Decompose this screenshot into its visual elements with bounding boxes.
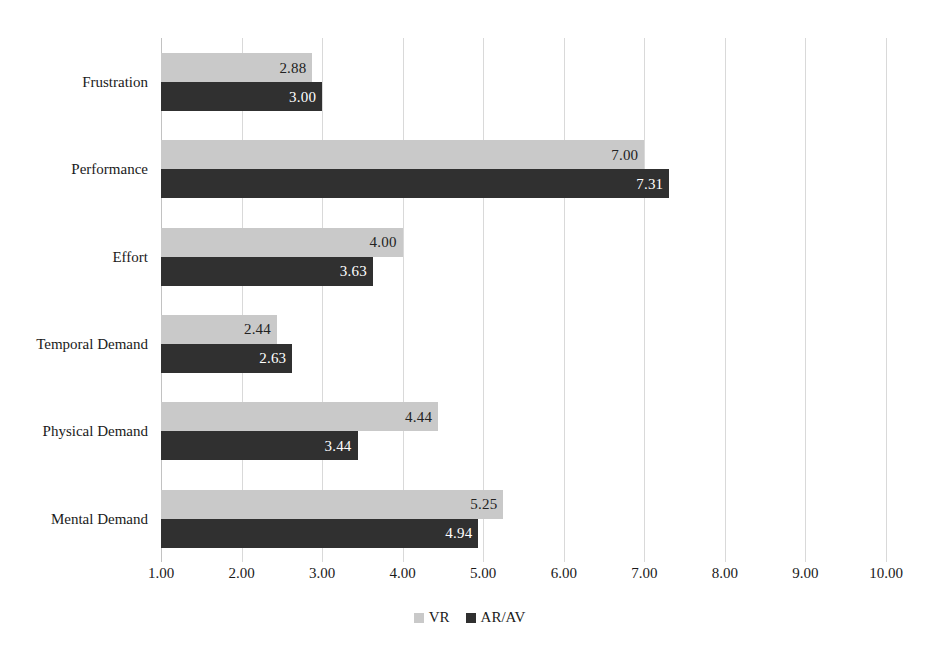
legend-label: AR/AV	[481, 610, 526, 625]
bar-ar-av-frustration: 3.00	[161, 82, 322, 111]
bar-value-label: 2.63	[259, 351, 286, 366]
bar-group: 5.254.94	[161, 490, 886, 548]
bar-value-label: 3.63	[340, 264, 367, 279]
bar-group: 2.442.63	[161, 315, 886, 373]
bar-vr-effort: 4.00	[161, 228, 403, 257]
category-label-mental-demand: Mental Demand	[11, 511, 161, 526]
bar-value-label: 7.00	[611, 147, 638, 162]
gridline-4.00	[403, 38, 404, 562]
x-tick-label-1.00: 1.00	[148, 566, 174, 581]
bar-vr-temporal-demand: 2.44	[161, 315, 277, 344]
legend-item-vr: VR	[414, 610, 450, 625]
bar-value-label: 2.88	[279, 60, 306, 75]
gridline-2.00	[242, 38, 243, 562]
gridline-10.00	[886, 38, 887, 562]
gridline-9.00	[805, 38, 806, 562]
bar-group: 4.003.63	[161, 228, 886, 286]
bar-ar-av-performance: 7.31	[161, 169, 669, 198]
bar-value-label: 4.44	[405, 409, 432, 424]
bar-vr-physical-demand: 4.44	[161, 402, 438, 431]
bar-vr-frustration: 2.88	[161, 53, 312, 82]
bar-chart: FrustrationPerformanceEffortTemporal Dem…	[0, 0, 939, 654]
gridline-7.00	[644, 38, 645, 562]
x-tick-label-4.00: 4.00	[390, 566, 416, 581]
gridline-3.00	[322, 38, 323, 562]
x-tick-label-2.00: 2.00	[228, 566, 254, 581]
category-label-physical-demand: Physical Demand	[11, 424, 161, 439]
bar-ar-av-mental-demand: 4.94	[161, 519, 478, 548]
gridline-5.00	[483, 38, 484, 562]
bar-value-label: 2.44	[244, 322, 271, 337]
x-tick-label-9.00: 9.00	[792, 566, 818, 581]
plot-area: 2.883.007.007.314.003.632.442.634.443.44…	[161, 38, 886, 562]
bar-value-label: 7.31	[636, 176, 663, 191]
category-label-temporal-demand: Temporal Demand	[11, 336, 161, 351]
category-label-performance: Performance	[11, 162, 161, 177]
category-label-effort: Effort	[11, 249, 161, 264]
bar-group: 2.883.00	[161, 53, 886, 111]
bar-vr-performance: 7.00	[161, 140, 644, 169]
x-tick-label-8.00: 8.00	[712, 566, 738, 581]
category-label-frustration: Frustration	[11, 75, 161, 90]
chart-legend: VRAR/AV	[0, 610, 939, 625]
legend-swatch-icon	[466, 613, 476, 623]
legend-swatch-icon	[414, 613, 424, 623]
bar-ar-av-temporal-demand: 2.63	[161, 344, 292, 373]
bar-value-label: 3.44	[324, 438, 351, 453]
bar-group: 4.443.44	[161, 402, 886, 460]
gridline-8.00	[725, 38, 726, 562]
x-tick-label-3.00: 3.00	[309, 566, 335, 581]
x-tick-label-10.00: 10.00	[869, 566, 903, 581]
legend-label: VR	[429, 610, 450, 625]
x-axis: 1.002.003.004.005.006.007.008.009.0010.0…	[0, 566, 939, 594]
x-tick-label-6.00: 6.00	[551, 566, 577, 581]
x-tick-label-7.00: 7.00	[631, 566, 657, 581]
x-tick-label-5.00: 5.00	[470, 566, 496, 581]
bar-group: 7.007.31	[161, 140, 886, 198]
bar-ar-av-effort: 3.63	[161, 257, 373, 286]
gridline-6.00	[564, 38, 565, 562]
bar-value-label: 4.00	[370, 235, 397, 250]
bar-vr-mental-demand: 5.25	[161, 490, 503, 519]
category-axis: FrustrationPerformanceEffortTemporal Dem…	[0, 38, 161, 562]
bar-value-label: 3.00	[289, 89, 316, 104]
bar-ar-av-physical-demand: 3.44	[161, 431, 358, 460]
bar-value-label: 4.94	[445, 526, 472, 541]
legend-item-ar-av: AR/AV	[466, 610, 526, 625]
gridline-1.00	[161, 38, 162, 562]
bar-value-label: 5.25	[470, 497, 497, 512]
